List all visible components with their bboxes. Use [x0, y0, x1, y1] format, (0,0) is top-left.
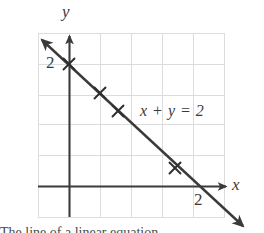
- equation-label: x + y = 2: [140, 103, 204, 119]
- y-axis-label: y: [62, 3, 70, 20]
- x-axis-label: x: [232, 176, 240, 193]
- y-intercept-label: 2: [46, 54, 55, 71]
- figure-caption: The line of a linear equation.: [0, 225, 264, 233]
- x-intercept-label: 2: [194, 191, 203, 208]
- figure-container: y x 2 2 x + y = 2 The line of a linear e…: [0, 0, 264, 233]
- coordinate-graph: [0, 0, 264, 233]
